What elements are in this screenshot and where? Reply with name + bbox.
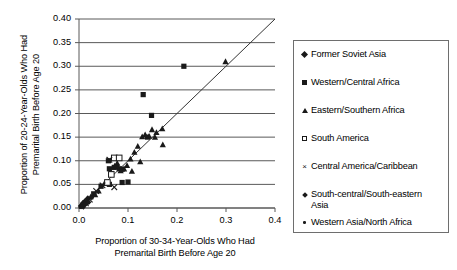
y-axis-tick-label: 0.30: [41, 61, 71, 70]
cross-glyph: ×: [301, 163, 308, 170]
data-point: [111, 184, 117, 190]
data-point: [116, 155, 122, 161]
y-axis-tick-label: 0.10: [41, 156, 71, 165]
legend-item-label: Western/Central Africa: [311, 77, 399, 88]
data-point: [181, 64, 186, 69]
legend-marker-open-square-icon: [300, 133, 311, 144]
x-axis-tick-label: 0.2: [162, 216, 192, 225]
y-axis-tick-label: 0.40: [41, 14, 71, 23]
legend-marker-small-diamond-icon: [300, 189, 311, 200]
x-axis-tick-label: 0.0: [64, 216, 94, 225]
data-point: [107, 166, 112, 171]
legend-item[interactable]: Western Asia/North Africa: [300, 217, 450, 228]
legend-item[interactable]: South America: [300, 133, 450, 144]
filled-square-glyph: [302, 80, 307, 85]
legend-marker-filled-triangle-icon: [300, 105, 311, 116]
filled-diamond-glyph: [301, 51, 308, 58]
x-axis-tick-label: 0.4: [260, 216, 290, 225]
legend-item-label: Central America/Caribbean: [311, 161, 418, 172]
legend-item[interactable]: Former Soviet Asia: [300, 49, 450, 60]
data-point: [149, 126, 155, 132]
legend-marker-dot-icon: [300, 217, 311, 228]
legend-marker-cross-icon: ×: [300, 161, 311, 172]
data-point: [109, 172, 115, 178]
dot-glyph: [303, 221, 306, 224]
data-point: [222, 58, 228, 64]
legend-item-label: Western Asia/North Africa: [311, 217, 412, 228]
data-point: [141, 92, 146, 97]
data-point: [137, 158, 143, 164]
legend-item-label: South-central/South-eastern Asia: [311, 189, 422, 211]
filled-triangle-glyph: [302, 108, 308, 113]
data-point: [83, 204, 86, 207]
small-diamond-glyph: [302, 192, 308, 198]
open-square-glyph: [302, 136, 307, 141]
data-point: [105, 180, 111, 186]
legend-item[interactable]: South-central/South-eastern Asia: [300, 189, 450, 211]
legend-item-label: Eastern/Southern Africa: [311, 105, 405, 116]
y-axis-tick-label: 0.20: [41, 109, 71, 118]
x-axis-tick-label: 0.1: [113, 216, 143, 225]
data-point: [149, 113, 154, 118]
y-axis-tick-label: 0.35: [41, 38, 71, 47]
legend-item-label: Former Soviet Asia: [311, 49, 386, 60]
legend: Former Soviet AsiaWestern/Central Africa…: [293, 40, 449, 233]
legend-item[interactable]: ×Central America/Caribbean: [300, 161, 450, 172]
data-point: [135, 143, 141, 149]
legend-marker-filled-diamond-icon: [300, 49, 311, 60]
data-point: [159, 125, 165, 131]
data-point: [85, 202, 88, 205]
data-point: [160, 141, 166, 147]
y-axis-tick-label: 0.15: [41, 132, 71, 141]
legend-item[interactable]: Western/Central Africa: [300, 77, 450, 88]
y-axis-tick-label: 0.00: [41, 203, 71, 212]
scatter-plot-figure: Proportion of 20-24-Year-Olds Who Had Pr…: [0, 0, 457, 270]
x-axis-tick-label: 0.3: [211, 216, 241, 225]
data-point: [120, 180, 125, 185]
legend-item[interactable]: Eastern/Southern Africa: [300, 105, 450, 116]
legend-marker-filled-square-icon: [300, 77, 311, 88]
data-point: [125, 179, 130, 184]
y-axis-tick-label: 0.05: [41, 179, 71, 188]
data-point: [129, 168, 135, 174]
y-axis-tick-label: 0.25: [41, 85, 71, 94]
legend-item-label: South America: [311, 133, 369, 144]
